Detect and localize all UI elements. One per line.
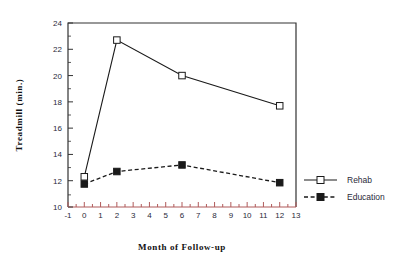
- treadmill-line-chart: 10 12 14 16 18 20 22 24 -1 0 1 2 3 4 5 6…: [0, 0, 402, 268]
- legend-label-education: Education: [347, 192, 385, 202]
- x-tick-label: 3: [131, 211, 136, 220]
- x-tick-label: 5: [163, 211, 168, 220]
- y-axis-title: Treadmill (min.): [14, 79, 24, 152]
- y-tick-label: 24: [53, 19, 62, 28]
- x-axis-title: Month of Follow-up: [138, 242, 226, 252]
- series-education: [81, 162, 283, 188]
- data-point-marker: [81, 181, 88, 188]
- x-axis-ticks: [68, 202, 296, 207]
- data-point-marker: [276, 179, 283, 186]
- data-point-marker: [114, 168, 121, 175]
- y-tick-label: 10: [53, 203, 62, 212]
- legend: Rehab Education: [304, 175, 385, 202]
- x-tick-label: 0: [82, 211, 87, 220]
- y-tick-label: 16: [53, 124, 62, 133]
- data-point-marker: [179, 72, 186, 79]
- data-point-marker: [114, 37, 121, 44]
- y-tick-label: 12: [53, 177, 62, 186]
- x-tick-label: 11: [259, 211, 268, 220]
- y-tick-label: 14: [53, 150, 62, 159]
- y-tick-label: 20: [53, 72, 62, 81]
- series-rehab: [81, 37, 283, 180]
- x-tick-label: 12: [275, 211, 284, 220]
- x-tick-label: 4: [147, 211, 152, 220]
- x-axis-tick-labels: -1 0 1 2 3 4 5 6 7 8 9 10 11 12 13: [64, 211, 301, 220]
- y-tick-label: 22: [53, 45, 62, 54]
- x-tick-label: -1: [64, 211, 72, 220]
- series-line: [84, 40, 279, 177]
- y-tick-label: 18: [53, 98, 62, 107]
- y-axis-ticks: [68, 23, 73, 207]
- data-point-marker: [179, 162, 186, 169]
- legend-item-education[interactable]: Education: [304, 192, 385, 202]
- legend-label-rehab: Rehab: [347, 175, 372, 185]
- x-tick-label: 1: [98, 211, 103, 220]
- data-point-marker: [276, 103, 283, 110]
- x-tick-label: 6: [180, 211, 185, 220]
- filled-square-marker-icon: [317, 194, 324, 201]
- y-axis-tick-labels: 10 12 14 16 18 20 22 24: [53, 19, 62, 212]
- data-series-layer: [81, 37, 283, 187]
- x-tick-label: 13: [292, 211, 301, 220]
- x-tick-label: 8: [212, 211, 217, 220]
- data-point-marker: [81, 174, 88, 181]
- x-tick-label: 7: [196, 211, 201, 220]
- x-tick-label: 10: [243, 211, 252, 220]
- x-tick-label: 9: [229, 211, 234, 220]
- x-tick-label: 2: [115, 211, 120, 220]
- open-square-marker-icon: [317, 177, 324, 184]
- legend-item-rehab[interactable]: Rehab: [304, 175, 372, 185]
